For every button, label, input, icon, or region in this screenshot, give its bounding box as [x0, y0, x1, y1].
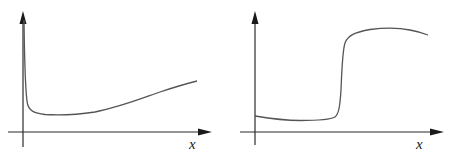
left-x-axis-arrowhead-icon [198, 129, 212, 136]
left-curve [24, 20, 197, 115]
right-x-axis-arrowhead-icon [430, 129, 444, 136]
figure: x x [0, 0, 449, 158]
left-x-axis-label: x [188, 136, 196, 152]
left-graph: x [8, 11, 212, 152]
right-graph: x [240, 11, 444, 152]
right-y-axis-arrowhead-icon [252, 11, 259, 24]
left-y-axis-arrowhead-icon [20, 11, 27, 24]
right-curve [255, 28, 428, 120]
right-x-axis-label: x [415, 136, 423, 152]
